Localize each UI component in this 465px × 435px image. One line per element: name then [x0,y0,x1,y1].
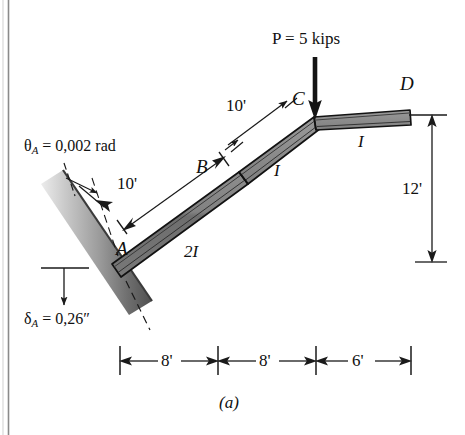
figure-container: P = 5 kips θA = 0,002 rad δA = 0,26″ A B… [0,0,465,435]
stiffness-label-CD: I [358,133,364,150]
node-label-A: A [116,239,128,258]
delta-symbol: δ [24,310,32,327]
settlement-label: δA = 0,26″ [24,311,90,329]
node-label-C: C [292,89,305,108]
theta-symbol: θ [24,137,32,154]
dimension-label-AB-10ft: 10' [117,175,137,192]
node-label-B: B [196,157,208,176]
rotation-label: θA = 0,002 rad [24,138,116,156]
settlement-arrow [41,268,89,305]
node-label-D: D [400,74,414,93]
stiffness-label-AB: 2I [184,243,198,260]
theta-value: = 0,002 rad [42,137,115,154]
load-symbol: P [272,29,281,48]
dimension-label-height-12ft: 12' [402,180,422,197]
frame-diagram-svg [0,0,465,435]
load-arrow-P [308,57,322,120]
dimension-label-span-2: 8' [259,352,271,369]
stiffness-label-BC: I [274,162,280,179]
load-label: P = 5 kips [272,30,340,47]
dimension-label-span-3: 6' [352,352,364,369]
delta-value: = 0,26″ [42,310,90,327]
load-units: kips [312,29,340,48]
dimension-label-BC-10ft: 10' [226,97,246,114]
figure-caption: (a) [219,394,239,411]
page-border [3,0,9,435]
dimension-label-span-1: 8' [161,352,173,369]
member-CD [314,110,411,130]
